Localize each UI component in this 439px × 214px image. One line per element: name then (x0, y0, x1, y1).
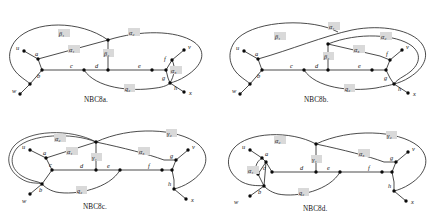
vertex-v (182, 48, 185, 51)
vertex-label-e: e (358, 62, 361, 69)
vertex-c (302, 68, 305, 71)
graph-nbc8b: u w a b c d e f g h v x β₁ α₁ α₂ α₃ β₂ q… (220, 4, 439, 100)
vertex-v (186, 148, 189, 151)
figure-sheet: u w a b c d e f g h v x β₁ α₁ α₂ β₂ α₃ q… (0, 0, 439, 214)
vertex-v (400, 48, 403, 51)
vertex-label-x: x (410, 198, 414, 205)
vertex-label-a: a (43, 149, 46, 156)
vertex-label-u: u (236, 44, 239, 51)
vertex-u (28, 148, 31, 151)
vertex-e (338, 170, 341, 173)
vertex-b (262, 184, 265, 187)
vertex-label-a: a (265, 150, 268, 157)
vertex-w (18, 92, 21, 95)
edge-label-alpha2: α₂ (381, 33, 386, 40)
vertex-label-f: f (148, 162, 151, 169)
vertex-label-u: u (22, 143, 25, 150)
vertex-f (380, 170, 383, 173)
vertex-label-b: b (257, 72, 260, 79)
vertex-junction-left (248, 82, 251, 85)
vertex-label-g: g (162, 74, 166, 81)
vertex-x (184, 197, 187, 200)
vertex-a (36, 57, 39, 60)
edge-label-q2: q₂ (77, 187, 82, 194)
vertex-top-hub (314, 142, 317, 145)
vertex-d (326, 68, 329, 71)
vertex-label-a: a (35, 50, 38, 57)
edge-label-gamma2: γ₂ (387, 132, 392, 139)
vertex-h (168, 81, 171, 84)
edge-label-alpha3: α₃ (171, 67, 176, 74)
vertex-label-x: x (188, 89, 192, 96)
vertex-f (160, 168, 163, 171)
vertex-x (182, 90, 185, 93)
vertex-h (172, 187, 175, 190)
graph-nbc8c: u w a b c d e f g h v x α₂ α₁ γ₁ γ₂ α₃ q… (0, 116, 219, 210)
vertex-fg-joint (388, 58, 391, 61)
vertex-c (50, 168, 53, 171)
vertex-label-g: g (384, 74, 388, 81)
panel-nbc8a: u w a b c d e f g h v x β₁ α₁ α₂ β₂ α₃ q… (0, 4, 219, 100)
vertex-label-h: h (398, 85, 401, 92)
vertex-e (370, 68, 373, 71)
panel-nbc8c: u w a b c d e f g h v x α₂ α₁ γ₁ γ₂ α₃ q… (0, 116, 219, 212)
vertex-label-c: c (290, 62, 293, 69)
vertex-label-b: b (258, 188, 261, 195)
edge-label-beta2: β₂ (323, 53, 329, 60)
vertex-label-w: w (22, 197, 27, 204)
vertex-label-h: h (174, 84, 177, 91)
vertex-fg-joint (170, 168, 173, 171)
vertex-label-c: c (70, 62, 73, 69)
vertex-label-d: d (80, 162, 84, 169)
vertex-label-h: h (388, 182, 391, 189)
vertex-label-d: d (95, 62, 99, 69)
panel-nbc8b: u w a b c d e f g h v x β₁ α₁ α₂ α₃ β₂ q… (220, 4, 439, 100)
vertex-label-v: v (412, 145, 415, 152)
vertex-label-u: u (242, 143, 245, 150)
vertex-g (394, 160, 397, 163)
vertex-label-h: h (168, 180, 171, 187)
edge-label-beta2: β₂ (103, 50, 109, 57)
caption-nbc8b: NBC8b. (304, 96, 328, 104)
edge-label-beta1: β₁ (58, 30, 64, 37)
vertex-label-w: w (234, 198, 239, 205)
edge-label-alpha1: α₁ (67, 148, 72, 155)
vertex-label-w: w (12, 87, 17, 94)
caption-nbc8c: NBC8c. (83, 203, 107, 211)
vertex-top-hub (106, 38, 109, 41)
vertex-top-hub (326, 42, 329, 45)
vertex-b (260, 68, 263, 71)
edge-label-alpha2: α₂ (55, 135, 60, 142)
vertex-f (164, 68, 167, 71)
edge-label-q2: q₂ (345, 85, 350, 92)
vertex-label-d: d (315, 62, 319, 69)
vertex-a (44, 156, 47, 159)
vertex-d (94, 168, 97, 171)
edge-label-gamma2: γ₂ (167, 130, 172, 137)
vertex-label-b: b (39, 186, 42, 193)
vertex-label-g: g (390, 154, 394, 161)
vertex-a (256, 57, 259, 60)
vertex-d (106, 68, 109, 71)
edge-label-alpha1: α₁ (248, 167, 253, 174)
vertex-label-e: e (327, 164, 330, 171)
edge-label-alpha2: α₂ (275, 137, 280, 144)
vertex-label-v: v (192, 143, 195, 150)
edge-label-alpha3: α₃ (139, 148, 144, 155)
vertex-label-v: v (188, 43, 191, 50)
vertex-junction-left (28, 82, 31, 85)
vertex-label-e: e (138, 62, 141, 69)
edge-label-alpha1: α₁ (329, 23, 334, 30)
vertex-label-w: w (232, 87, 237, 94)
vertex-u (242, 49, 245, 52)
caption-nbc8d: NBC8d. (303, 205, 327, 213)
vertex-v (406, 150, 409, 153)
vertex-c-spine (270, 170, 273, 173)
vertex-b (40, 68, 43, 71)
vertex-w (248, 194, 251, 197)
vertex-label-a: a (255, 50, 258, 57)
edge-label-q2: q₂ (125, 85, 130, 92)
vertex-label-c: c (263, 164, 266, 171)
vertex-label-f: f (386, 50, 389, 57)
vertex-label-c: c (49, 161, 52, 168)
